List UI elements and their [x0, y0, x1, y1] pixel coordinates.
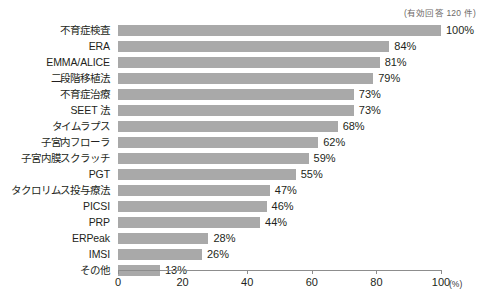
bar-track: 62% [118, 134, 441, 150]
bar-category-label: 二段階移植法 [0, 70, 110, 86]
x-axis-tick-label: 80 [370, 276, 382, 288]
bar-category-label: その他 [0, 262, 110, 278]
bar [118, 201, 267, 212]
bar-category-label: PGT [0, 166, 110, 182]
bar-value-label: 73% [354, 102, 381, 118]
bar [118, 89, 354, 100]
bar-track: 79% [118, 70, 441, 86]
bar-category-label: タクロリムス投与療法 [0, 182, 110, 198]
bar [118, 25, 441, 36]
bar-category-label: PRP [0, 214, 110, 230]
bar-value-label: 79% [373, 70, 400, 86]
bar [118, 137, 318, 148]
bar-value-label: 81% [380, 54, 407, 70]
bar-value-label: 62% [318, 134, 345, 150]
bar-row: 子宮内フローラ62% [0, 134, 490, 150]
bar-track: 47% [118, 182, 441, 198]
bar-track: 28% [118, 230, 441, 246]
bar-row: ERPeak28% [0, 230, 490, 246]
bar-chart: (有効回答 120 件) 不育症検査100%ERA84%EMMA/ALICE81… [0, 0, 490, 296]
x-axis-tick-label: 100 [432, 276, 450, 288]
bar-row: PICSI46% [0, 198, 490, 214]
bar-category-label: IMSI [0, 246, 110, 262]
bar-value-label: 84% [389, 38, 416, 54]
bar-category-label: 子宮内膜スクラッチ [0, 150, 110, 166]
bar-category-label: PICSI [0, 198, 110, 214]
bar-track: 55% [118, 166, 441, 182]
x-axis: (%) 020406080100 [118, 270, 441, 296]
bar-row: タクロリムス投与療法47% [0, 182, 490, 198]
bar-category-label: 子宮内フローラ [0, 134, 110, 150]
bar-row: 不育症治療73% [0, 86, 490, 102]
bar-category-label: 不育症治療 [0, 86, 110, 102]
bar-value-label: 44% [260, 214, 287, 230]
bar-row: 子宮内膜スクラッチ59% [0, 150, 490, 166]
bar [118, 105, 354, 116]
bar-category-label: 不育症検査 [0, 22, 110, 38]
bar-category-label: ERPeak [0, 230, 110, 246]
bar-value-label: 26% [202, 246, 229, 262]
bar-value-label: 73% [354, 86, 381, 102]
bar [118, 41, 389, 52]
bar-value-label: 55% [296, 166, 323, 182]
bar-value-label: 47% [270, 182, 297, 198]
bar [118, 185, 270, 196]
bar [118, 73, 373, 84]
bar-track: 46% [118, 198, 441, 214]
bar-row: IMSI26% [0, 246, 490, 262]
bar-row: PRP44% [0, 214, 490, 230]
bar-category-label: ERA [0, 38, 110, 54]
x-axis-tick [312, 270, 313, 274]
bar-category-label: SEET 法 [0, 102, 110, 118]
bar-row: 二段階移植法79% [0, 70, 490, 86]
response-count-note: (有効回答 120 件) [404, 6, 476, 18]
bar-category-label: タイムラプス [0, 118, 110, 134]
bar-value-label: 100% [441, 22, 474, 38]
bar-track: 73% [118, 102, 441, 118]
bar [118, 233, 208, 244]
bar-track: 68% [118, 118, 441, 134]
bar-value-label: 28% [208, 230, 235, 246]
bar [118, 217, 260, 228]
x-axis-tick [441, 270, 442, 274]
bar-track: 84% [118, 38, 441, 54]
bar-value-label: 46% [267, 198, 294, 214]
bar-track: 44% [118, 214, 441, 230]
bar-track: 26% [118, 246, 441, 262]
bar-category-label: EMMA/ALICE [0, 54, 110, 70]
bar [118, 153, 309, 164]
x-axis-tick [376, 270, 377, 274]
x-axis-tick [118, 270, 119, 274]
bar-value-label: 59% [309, 150, 336, 166]
bar-row: ERA84% [0, 38, 490, 54]
bar [118, 121, 338, 132]
bar-row: PGT55% [0, 166, 490, 182]
x-axis-tick-label: 0 [115, 276, 121, 288]
plot-area: 不育症検査100%ERA84%EMMA/ALICE81%二段階移植法79%不育症… [0, 22, 490, 270]
bar-track: 81% [118, 54, 441, 70]
x-axis-tick-label: 40 [241, 276, 253, 288]
bar [118, 57, 380, 68]
bar-row: 不育症検査100% [0, 22, 490, 38]
bar-track: 100% [118, 22, 441, 38]
bar-track: 73% [118, 86, 441, 102]
bar-track: 59% [118, 150, 441, 166]
x-axis-tick [247, 270, 248, 274]
x-axis-line [118, 270, 441, 271]
x-axis-tick [183, 270, 184, 274]
bar-row: EMMA/ALICE81% [0, 54, 490, 70]
bar [118, 169, 296, 180]
x-axis-tick-label: 60 [306, 276, 318, 288]
bar [118, 249, 202, 260]
bar-row: SEET 法73% [0, 102, 490, 118]
bar-row: タイムラプス68% [0, 118, 490, 134]
x-axis-tick-label: 20 [176, 276, 188, 288]
bar-value-label: 68% [338, 118, 365, 134]
x-axis-unit-label: (%) [449, 279, 462, 289]
